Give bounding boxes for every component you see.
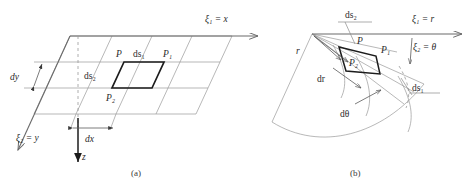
panel-a-dy-label: dy [10, 72, 20, 82]
panel-b-r-label: r [296, 46, 300, 56]
panel-b-dtheta-dimension [355, 90, 381, 104]
panel-b-caption: (b) [350, 168, 361, 178]
panel-b-r-dimension [314, 36, 348, 62]
panel-b-xi1-label: ξ₁ = r [412, 14, 435, 25]
panel-a-z-label: z [81, 152, 86, 162]
panel-b-ds1-label: ds₁ [412, 83, 424, 93]
panel-a-ds2-label: ds₂ [84, 71, 96, 81]
panel-a-dx-label: dx [85, 134, 95, 144]
panel-a-point-p1-label: P₁ [162, 49, 172, 59]
figure-container: ξ₁ = x ξ₂ = y z dy dx P P₁ P₂ [0, 0, 469, 190]
panel-a-point-p2-label: P₂ [105, 93, 116, 103]
panel-a-caption: (a) [131, 168, 141, 178]
panel-a-dy-dimension [24, 62, 58, 88]
panel-a-cartesian: ξ₁ = x ξ₂ = y z dy dx P P₁ P₂ [10, 14, 258, 178]
panel-b-dr-label: dr [317, 74, 326, 84]
panel-b-xi2-label: ξ₂ = θ [413, 42, 437, 53]
panel-b-point-p2-label: P₂ [348, 58, 359, 68]
panel-a-dx-dimension [70, 114, 116, 130]
panel-a-ds1-label: ds₁ [133, 49, 145, 59]
panel-a-grid-y-lines [34, 36, 232, 114]
panel-b-xi2-axis [410, 38, 412, 64]
panel-a-xi2-label: ξ₂ = y [16, 133, 40, 144]
panel-b-ds2-label: ds₂ [345, 10, 357, 20]
panel-b-dtheta-label: dθ [340, 109, 350, 119]
panel-b-point-p-label: P [356, 36, 363, 46]
panel-b-point-p1-label: P₁ [380, 45, 390, 55]
panel-a-grid-x-lines [34, 36, 232, 114]
panel-a-xi1-label: ξ₁ = x [205, 14, 229, 25]
panel-b-polar: ξ₁ = r ξ₂ = θ r dr dθ ds₂ [272, 10, 462, 178]
panel-a-point-p-label: P [115, 49, 122, 59]
